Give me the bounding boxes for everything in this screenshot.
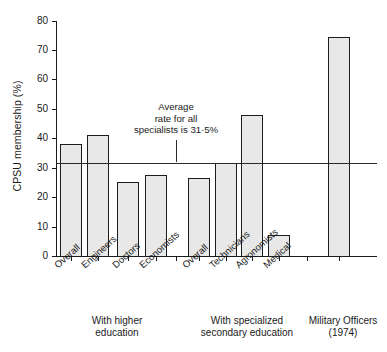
group-label-secondary-education: With specialized secondary education [183, 315, 311, 339]
y-tick-label-50: 50 [26, 104, 48, 114]
group-label-military-officers: Military Officers (1974) [300, 315, 386, 339]
x-tick-group-separator-2 [307, 256, 308, 261]
average-annotation-text: Average rate for all specialists is 31·5… [116, 101, 236, 136]
bar-overall-higher [60, 144, 82, 257]
group-label-higher-education: With higher education [57, 315, 177, 339]
bar-chart: CPSU membership (%) 80 70 60 50 40 30 20… [0, 0, 387, 352]
y-tick-label-0: 0 [26, 251, 48, 261]
y-tick-label-80: 80 [26, 16, 48, 26]
y-tick-label-40: 40 [26, 133, 48, 143]
y-tick-label-20: 20 [26, 192, 48, 202]
average-reference-line [56, 163, 377, 164]
y-tick-label-70: 70 [26, 45, 48, 55]
bar-military-officers [328, 37, 350, 257]
y-tick-label-60: 60 [26, 74, 48, 84]
y-tick-label-30: 30 [26, 163, 48, 173]
y-axis-line [56, 21, 57, 257]
average-leader-line [176, 140, 177, 162]
y-tick-label-10: 10 [26, 222, 48, 232]
x-tick-military-officers [339, 256, 340, 261]
x-tick-group-separator-1 [176, 256, 177, 261]
y-axis-title: CPSU membership (%) [11, 46, 23, 226]
